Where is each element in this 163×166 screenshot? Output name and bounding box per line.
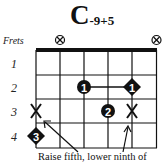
finger-marker-circle: 1 (77, 80, 91, 94)
svg-text:1: 1 (129, 82, 135, 94)
finger-marker-circle: 2 (101, 104, 115, 118)
svg-text:2: 2 (105, 106, 111, 118)
finger-marker-diamond: 3 (27, 127, 45, 145)
muted-string-icon (56, 36, 65, 45)
svg-text:3: 3 (33, 131, 39, 143)
finger-marker-diamond: 1 (123, 78, 141, 96)
nut (36, 48, 157, 52)
caption: Raise fifth, lower ninth of (38, 151, 147, 162)
arrow-icon (44, 121, 78, 152)
chord-grid: 1 1 2 3 (0, 0, 163, 166)
muted-string-icon (152, 36, 161, 45)
svg-text:1: 1 (81, 82, 87, 94)
